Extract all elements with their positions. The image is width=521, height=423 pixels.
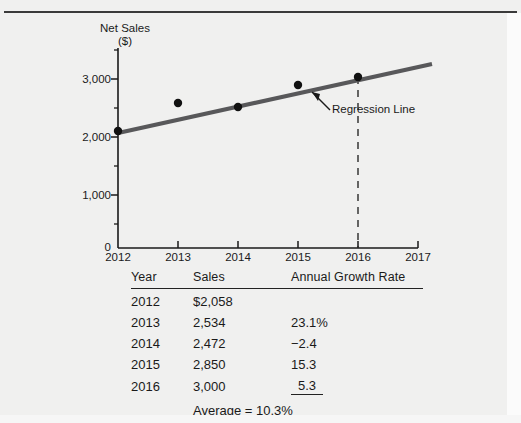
cell-growth-rate bbox=[291, 289, 423, 311]
cell-sales: 2,534 bbox=[193, 310, 291, 331]
y-axis-major-ticks bbox=[111, 79, 118, 195]
bottom-margin-fade bbox=[0, 415, 521, 423]
data-point-2013 bbox=[174, 99, 182, 107]
x-axis-ticks bbox=[178, 241, 418, 248]
table-row: 2016 3,000 5.3 bbox=[131, 373, 423, 396]
table-header-row: Year Sales Annual Growth Rate bbox=[131, 270, 423, 289]
cell-sales: $2,058 bbox=[193, 289, 291, 311]
col-header-sales: Sales bbox=[193, 270, 291, 289]
cell-year: 2016 bbox=[131, 373, 193, 396]
cell-year: 2014 bbox=[131, 331, 193, 352]
chart-plot-svg bbox=[0, 0, 460, 268]
regression-line-annotation-label: Regression Line bbox=[332, 103, 415, 115]
col-header-year: Year bbox=[131, 270, 193, 289]
cell-sales: 2,850 bbox=[193, 352, 291, 373]
regression-annotation-arrow bbox=[312, 92, 330, 110]
data-point-2014 bbox=[234, 103, 242, 111]
data-point-2012 bbox=[114, 127, 122, 135]
cell-growth-rate: 15.3 bbox=[291, 352, 423, 373]
data-point-2015 bbox=[294, 81, 302, 89]
table-head: Year Sales Annual Growth Rate bbox=[131, 270, 423, 289]
cell-growth-rate-last-value: 5.3 bbox=[291, 378, 323, 395]
data-point-2016 bbox=[354, 73, 362, 81]
cell-growth-rate-last: 5.3 bbox=[291, 373, 423, 396]
figure-panel: Net Sales ($) 3,000 2,000 1,000 0 2012 2… bbox=[0, 0, 521, 423]
col-header-annual-growth-rate: Annual Growth Rate bbox=[291, 270, 423, 289]
regression-line bbox=[118, 64, 432, 133]
table-row: 2015 2,850 15.3 bbox=[131, 352, 423, 373]
net-sales-chart: Net Sales ($) 3,000 2,000 1,000 0 2012 2… bbox=[0, 0, 460, 268]
table-row: 2012 $2,058 bbox=[131, 289, 423, 311]
cell-growth-rate: 23.1% bbox=[291, 310, 423, 331]
cell-sales: 2,472 bbox=[193, 331, 291, 352]
table-body: 2012 $2,058 2013 2,534 23.1% 2014 2,472 … bbox=[131, 289, 423, 420]
right-margin-fade bbox=[507, 13, 521, 423]
growth-table-wrap: Year Sales Annual Growth Rate 2012 $2,05… bbox=[0, 268, 521, 418]
cell-year: 2013 bbox=[131, 310, 193, 331]
cell-growth-rate: −2.4 bbox=[291, 331, 423, 352]
table-row: 2013 2,534 23.1% bbox=[131, 310, 423, 331]
cell-year: 2012 bbox=[131, 289, 193, 311]
table-row: 2014 2,472 −2.4 bbox=[131, 331, 423, 352]
cell-sales: 3,000 bbox=[193, 373, 291, 396]
annual-growth-table: Year Sales Annual Growth Rate 2012 $2,05… bbox=[131, 270, 423, 420]
cell-year: 2015 bbox=[131, 352, 193, 373]
